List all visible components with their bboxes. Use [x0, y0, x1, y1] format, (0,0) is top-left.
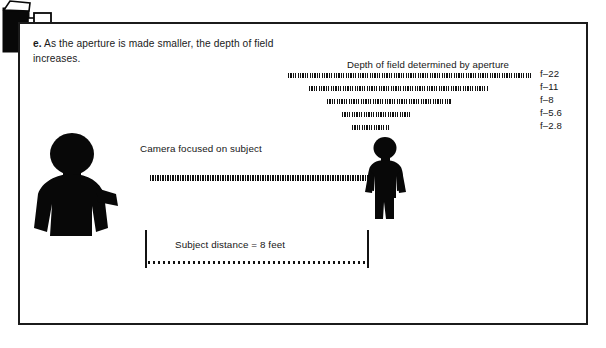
- dof-label-f11: f–11: [540, 81, 558, 92]
- distance-tick-left: [145, 230, 147, 268]
- focus-caption: Camera focused on subject: [140, 143, 262, 154]
- distance-line: [148, 261, 368, 264]
- dof-bar-row: [0, 86, 606, 94]
- dof-label-f5-6: f–5.6: [540, 107, 562, 118]
- caption-text: As the aperture is made smaller, the dep…: [33, 38, 273, 64]
- depth-of-field-title: Depth of field determined by aperture: [318, 59, 538, 70]
- subject-silhouette: [360, 136, 416, 225]
- dof-label-f22: f–22: [540, 68, 559, 79]
- dof-bar-row: [0, 73, 606, 81]
- dof-bar-f11: [309, 86, 489, 91]
- dof-bar-f22: [288, 73, 531, 78]
- focus-line: [150, 175, 372, 181]
- dof-label-f8: f–8: [540, 94, 554, 105]
- dof-label-f2-8: f–2.8: [540, 120, 562, 131]
- dof-bar-f2-8: [352, 125, 390, 130]
- dof-bar-f5-6: [342, 112, 410, 117]
- figure-canvas: e. As the aperture is made smaller, the …: [0, 0, 606, 348]
- dof-bar-f8: [327, 99, 452, 104]
- figure-caption: e. As the aperture is made smaller, the …: [33, 36, 303, 66]
- caption-label: e.: [33, 38, 42, 49]
- distance-caption: Subject distance = 8 feet: [175, 239, 285, 250]
- dof-bar-row: [0, 99, 606, 107]
- photographer-silhouette: [30, 132, 150, 241]
- dof-bar-row: [0, 112, 606, 120]
